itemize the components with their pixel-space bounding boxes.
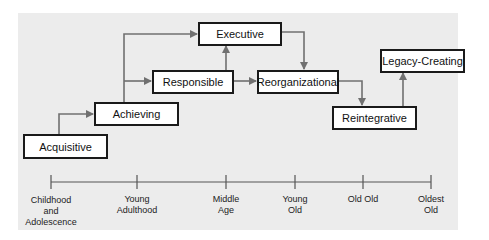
- timeline-label-old-old: Old Old: [348, 194, 379, 205]
- arrow-reorganizational-reintegrative: [338, 81, 362, 105]
- timeline-label-young-adulthood: Young Adulthood: [117, 194, 158, 216]
- label-line: Adolescence: [25, 217, 77, 228]
- label-line: Young: [117, 194, 158, 205]
- label-line: Childhood: [25, 195, 77, 206]
- stage-reorganizational: Reorganizational: [257, 70, 339, 94]
- label-line: Old: [418, 205, 444, 216]
- label-line: and: [25, 206, 77, 217]
- label-line: Oldest: [418, 194, 444, 205]
- arrow-executive-reorganizational: [281, 32, 304, 69]
- stage-achieving: Achieving: [94, 102, 179, 126]
- label-line: Adulthood: [117, 205, 158, 216]
- label-line: Middle: [213, 194, 240, 205]
- stage-executive: Executive: [198, 22, 282, 46]
- timeline-axis: [51, 175, 431, 189]
- timeline-label-young-old: Young Old: [282, 194, 307, 216]
- stage-reintegrative: Reintegrative: [332, 106, 417, 130]
- label-line: Old: [282, 205, 307, 216]
- timeline-label-middle-age: Middle Age: [213, 194, 240, 216]
- stage-legacy-creating: Legacy-Creating: [380, 49, 465, 73]
- timeline-label-oldest-old: Oldest Old: [418, 194, 444, 216]
- timeline-label-childhood: Childhood and Adolescence: [25, 195, 77, 228]
- stage-responsible: Responsible: [152, 70, 234, 94]
- arrow-acquisitive-achieving: [59, 114, 93, 134]
- label-line: Age: [213, 205, 240, 216]
- label-line: Young: [282, 194, 307, 205]
- label-line: Old Old: [348, 194, 379, 205]
- stage-acquisitive: Acquisitive: [23, 134, 108, 159]
